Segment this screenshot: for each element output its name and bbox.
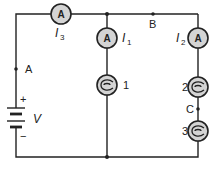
svg-text:2: 2: [181, 38, 186, 47]
junction-bottom: [105, 155, 109, 159]
current-label-i1: I: [122, 31, 126, 45]
bulb-1-label: 1: [123, 79, 129, 91]
bulb-icon: [97, 75, 117, 95]
point-a-label: A: [25, 63, 33, 75]
point-b: B: [149, 12, 156, 30]
current-label-i3: I: [55, 26, 59, 40]
bulb-1: 1: [97, 75, 129, 95]
bulb-icon: [188, 121, 208, 141]
svg-text:A: A: [194, 33, 201, 44]
svg-text:A: A: [103, 33, 110, 44]
point-b-label: B: [149, 18, 156, 30]
svg-text:A: A: [57, 9, 64, 20]
ammeter-2: A I 2: [176, 28, 208, 48]
bulb-3: 3: [182, 121, 208, 141]
battery-minus: −: [20, 130, 26, 142]
point-a: A: [14, 63, 33, 75]
bulb-2: 2: [182, 77, 208, 97]
battery-plus: +: [20, 93, 26, 105]
current-label-i2: I: [176, 31, 180, 45]
ammeter-3: A I 3: [51, 4, 71, 42]
circuit-diagram: A B C A I 3 A I 1 A I 2 1 2: [0, 0, 221, 169]
voltage-label: V: [33, 112, 42, 126]
bulb-3-label: 3: [182, 125, 188, 137]
battery: + − V: [7, 93, 42, 142]
point-c-label: C: [186, 103, 194, 115]
svg-text:3: 3: [60, 33, 65, 42]
junction-top: [105, 12, 109, 16]
bulb-2-label: 2: [182, 81, 188, 93]
bulb-icon: [188, 77, 208, 97]
svg-text:1: 1: [127, 38, 132, 47]
ammeter-1: A I 1: [97, 28, 132, 48]
